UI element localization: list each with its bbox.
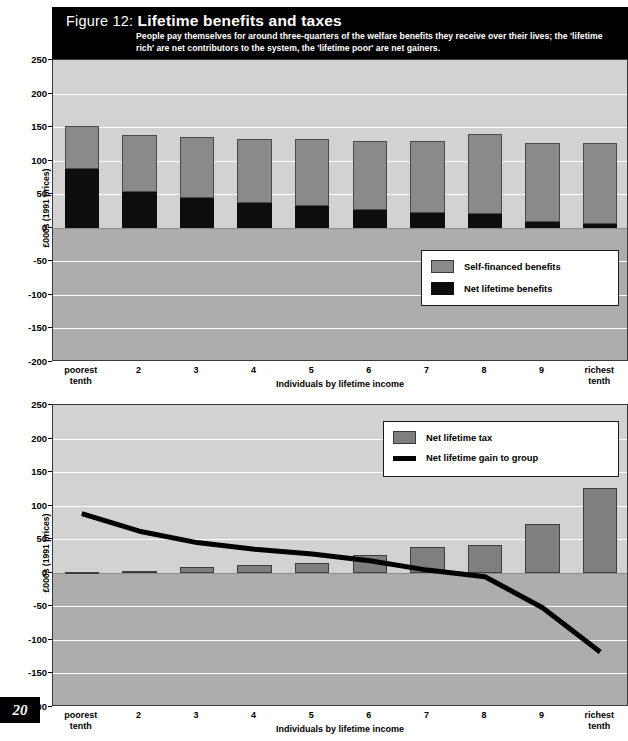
bar-net-lifetime-benefits <box>525 222 560 227</box>
bar-self-financed-benefits <box>122 135 157 192</box>
chart-taxes: Net lifetime tax Net lifetime gain to gr… <box>52 404 628 706</box>
legend-label-net-gain: Net lifetime gain to group <box>426 453 538 463</box>
x-tick-label: richesttenth <box>584 710 614 731</box>
legend-swatch-self-financed <box>431 260 454 273</box>
page-badge: 20 <box>0 697 40 723</box>
bar-net-lifetime-benefits <box>180 198 215 228</box>
bar-self-financed-benefits <box>525 143 560 222</box>
y-tick-label: 150 <box>31 466 47 477</box>
y-tick-label: 250 <box>31 399 47 410</box>
y-tick-mark <box>48 438 52 439</box>
legend-item-net-gain: Net lifetime gain to group <box>393 453 538 463</box>
bar-self-financed-benefits <box>468 134 503 213</box>
x-tick-label: 6 <box>366 365 371 376</box>
gridline <box>53 94 627 95</box>
y-tick-mark <box>48 672 52 673</box>
y-tick-mark <box>48 404 52 405</box>
x-axis-label-taxes: Individuals by lifetime income <box>276 724 404 734</box>
y-axis-label-benefits: £000s (1991 prices) <box>41 138 51 278</box>
y-tick-label: 250 <box>31 54 47 65</box>
page-number: 20 <box>0 697 40 723</box>
x-tick-label: 4 <box>251 710 256 721</box>
bar-net-lifetime-benefits <box>353 210 388 227</box>
x-tick-label: 7 <box>424 710 429 721</box>
x-tick-label: 9 <box>539 710 544 721</box>
bar-self-financed-benefits <box>237 139 272 203</box>
bar-self-financed-benefits <box>353 141 388 211</box>
figure-title: Figure 12: Lifetime benefits and taxes <box>66 12 342 30</box>
plot-area-taxes: Net lifetime tax Net lifetime gain to gr… <box>52 404 628 706</box>
figure-subtitle: People pay themselves for around three-q… <box>136 31 620 54</box>
y-tick-label: -150 <box>28 667 47 678</box>
x-tick-label: pooresttenth <box>64 365 97 386</box>
y-tick-mark <box>48 126 52 127</box>
y-tick-label: -200 <box>28 356 47 367</box>
legend-taxes: Net lifetime tax Net lifetime gain to gr… <box>383 421 619 477</box>
y-tick-label: 200 <box>31 432 47 443</box>
x-tick-label: 5 <box>309 365 314 376</box>
y-tick-mark <box>48 294 52 295</box>
x-tick-label: 2 <box>136 365 141 376</box>
x-tick-label: 2 <box>136 710 141 721</box>
y-tick-mark <box>48 93 52 94</box>
y-tick-mark <box>48 59 52 60</box>
legend-swatch-net-benefits <box>431 282 454 295</box>
y-tick-label: 150 <box>31 121 47 132</box>
legend-item-net-benefits: Net lifetime benefits <box>431 282 552 295</box>
x-tick-label: 8 <box>481 710 486 721</box>
legend-swatch-net-gain <box>393 456 416 461</box>
y-tick-mark <box>48 361 52 362</box>
legend-label-net-benefits: Net lifetime benefits <box>464 284 552 294</box>
y-tick-mark <box>48 639 52 640</box>
x-tick-label: pooresttenth <box>64 710 97 731</box>
plot-area-benefits: Self-financed benefits Net lifetime bene… <box>52 59 628 361</box>
figure-number: Figure 12: <box>66 13 133 29</box>
y-axis-label-taxes: £000s (1991 prices) <box>41 483 51 623</box>
bar-self-financed-benefits <box>65 126 100 169</box>
bar-net-lifetime-benefits <box>410 213 445 228</box>
x-tick-label: 4 <box>251 365 256 376</box>
bar-net-lifetime-benefits <box>295 206 330 227</box>
gridline <box>53 328 627 329</box>
bar-net-lifetime-benefits <box>122 192 157 228</box>
x-tick-label: 3 <box>193 710 198 721</box>
x-tick-label: richesttenth <box>584 365 614 386</box>
legend-swatch-net-tax <box>393 431 416 444</box>
y-tick-label: -150 <box>28 322 47 333</box>
bar-self-financed-benefits <box>410 141 445 213</box>
legend-item-self-financed: Self-financed benefits <box>431 260 561 273</box>
zero-line <box>53 228 627 229</box>
y-tick-mark <box>48 706 52 707</box>
chart-benefits: Self-financed benefits Net lifetime bene… <box>52 59 628 361</box>
bar-net-lifetime-benefits <box>237 203 272 228</box>
x-tick-label: 3 <box>193 365 198 376</box>
x-axis-label-benefits: Individuals by lifetime income <box>276 379 404 389</box>
legend-benefits: Self-financed benefits Net lifetime bene… <box>421 250 619 306</box>
y-tick-mark <box>48 327 52 328</box>
bar-self-financed-benefits <box>295 139 330 207</box>
x-tick-label: 7 <box>424 365 429 376</box>
legend-item-net-tax: Net lifetime tax <box>393 431 492 444</box>
x-tick-label: 5 <box>309 710 314 721</box>
x-tick-label: 9 <box>539 365 544 376</box>
legend-label-net-tax: Net lifetime tax <box>426 433 492 443</box>
bar-net-lifetime-benefits <box>468 214 503 228</box>
y-tick-label: -100 <box>28 633 47 644</box>
gridline <box>53 127 627 128</box>
y-tick-label: 200 <box>31 87 47 98</box>
figure-title-text: Lifetime benefits and taxes <box>138 12 342 29</box>
bar-net-lifetime-benefits <box>583 224 618 227</box>
figure-title-bar: Figure 12: Lifetime benefits and taxes P… <box>52 7 628 59</box>
x-tick-label: 6 <box>366 710 371 721</box>
y-tick-label: -100 <box>28 288 47 299</box>
x-tick-label: 8 <box>481 365 486 376</box>
bar-self-financed-benefits <box>180 137 215 197</box>
bar-net-lifetime-benefits <box>65 169 100 228</box>
y-tick-mark <box>48 471 52 472</box>
bar-self-financed-benefits <box>583 143 618 224</box>
legend-label-self-financed: Self-financed benefits <box>464 262 561 272</box>
